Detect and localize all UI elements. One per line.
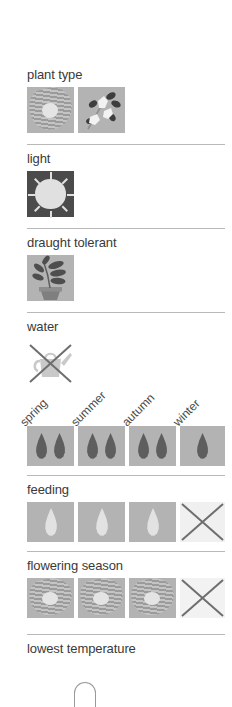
draught-tolerant-icon-tile[interactable] [27,255,74,301]
flowering-tile-winter-none[interactable] [180,578,225,618]
divider [27,634,225,635]
light-icon-tile[interactable] [27,171,74,217]
section-label-lowest-temperature: lowest temperature [27,641,136,656]
section-label-flowering-season: flowering season [27,558,123,573]
water-amount-tile-winter[interactable] [180,426,225,466]
plant-care-panel: plant type light [0,0,232,707]
cross-out-icon [180,578,225,618]
sun-icon [27,171,74,217]
thermometer-icon [74,682,96,707]
divider [27,144,225,145]
water-droplet-icon [154,433,169,459]
water-droplet-icon [34,433,49,459]
potted-plant-icon [27,255,74,301]
cross-out-icon [180,502,225,542]
water-droplet-icon [85,433,100,459]
divider [27,475,225,476]
feeding-droplet-icon [94,508,110,536]
water-amount-tile-spring[interactable] [27,426,74,466]
divider [27,551,225,552]
feeding-droplet-icon [43,508,59,536]
water-icon-tile[interactable] [27,339,74,385]
plant-type-icon-sprig[interactable] [78,87,125,133]
feeding-tile-winter-none[interactable] [180,502,225,542]
water-droplet-icon [103,433,118,459]
season-label-summer: summer [68,388,109,429]
flowering-tile-spring[interactable] [27,578,74,618]
section-label-water: water [27,319,58,334]
feeding-tile-summer[interactable] [78,502,125,542]
water-droplet-icon [195,433,210,459]
section-label-draught-tolerant: draught tolerant [27,235,116,250]
flowering-tile-autumn[interactable] [129,578,176,618]
section-label-plant-type: plant type [27,67,82,82]
season-label-autumn: autumn [119,391,157,429]
water-amount-tile-autumn[interactable] [129,426,176,466]
water-amount-tile-summer[interactable] [78,426,125,466]
water-droplet-icon [52,433,67,459]
plant-type-icon-striped-flower[interactable] [27,87,74,133]
section-label-feeding: feeding [27,482,69,497]
section-label-light: light [27,151,50,166]
feeding-droplet-icon [145,508,161,536]
water-droplet-icon [136,433,151,459]
season-label-winter: winter [170,396,203,429]
divider [27,312,225,313]
flowering-sprig-icon [78,87,125,133]
watering-can-crossed-out-icon [27,339,74,385]
feeding-tile-spring[interactable] [27,502,74,542]
flowering-tile-summer[interactable] [78,578,125,618]
divider [27,228,225,229]
feeding-tile-autumn[interactable] [129,502,176,542]
season-label-spring: spring [17,396,50,429]
